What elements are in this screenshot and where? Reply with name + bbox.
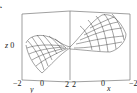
z-tick-0: 0 [10,41,14,50]
z-axis-label: z 0 [5,42,14,50]
x-tick-2: 2 [72,81,76,89]
y-axis-label: y [30,86,34,93]
x-tick-0: 0 [101,80,105,88]
x-axis-label: x [107,85,111,93]
y-tick-neg2: −2 [13,80,22,88]
y-tick-2: 2 [65,81,69,89]
z-label: z [5,41,8,50]
x-tick-neg2: −2 [129,80,137,88]
y-tick-0: 0 [40,80,44,88]
saddle-surface [26,14,126,73]
